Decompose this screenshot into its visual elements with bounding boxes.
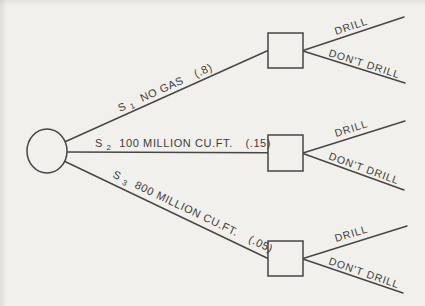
action-label-dont-drill-3: DON'T DRILL xyxy=(327,255,401,291)
action-label-dont-drill-1: DON'T DRILL xyxy=(327,46,401,80)
state-text: 800 MILLION CU.FT. xyxy=(133,178,241,238)
state-subscript: 1 xyxy=(129,101,137,111)
state-branch-line-s2 xyxy=(67,152,268,153)
state-branch-label-s3: S 3 800 MILLION CU.FT. (.05) xyxy=(110,168,275,257)
chance-node-circle xyxy=(27,129,67,173)
state-branch-line-s1 xyxy=(65,51,269,143)
decision-node-square-1 xyxy=(268,33,303,68)
state-letter: S xyxy=(111,168,123,182)
action-label-drill-2: DRILL xyxy=(333,117,369,139)
state-branch-label-s2: S 2 100 MILLION CU.FT. (.15) xyxy=(95,137,271,152)
state-probability: (.05) xyxy=(247,233,275,255)
decision-tree-figure: S 1 NO GAS (.8) S 2 100 MILLION CU.FT. (… xyxy=(0,0,425,306)
decision-tree-canvas: S 1 NO GAS (.8) S 2 100 MILLION CU.FT. (… xyxy=(0,0,425,306)
action-label-drill-3: DRILL xyxy=(333,222,369,243)
state-probability: (.15) xyxy=(245,137,271,149)
action-label-dont-drill-2: DON'T DRILL xyxy=(327,150,401,187)
state-subscript: 3 xyxy=(121,178,129,188)
state-branch-label-s1: S 1 NO GAS (.8) xyxy=(116,61,215,116)
decision-node-square-2 xyxy=(268,135,303,171)
state-text: NO GAS xyxy=(138,74,185,104)
state-text: 100 MILLION CU.FT. xyxy=(119,137,233,149)
state-letter: S xyxy=(116,100,128,114)
state-subscript: 2 xyxy=(107,143,112,152)
state-letter: S xyxy=(95,137,103,149)
action-label-drill-1: DRILL xyxy=(333,15,369,37)
state-branch-line-s3 xyxy=(64,161,268,259)
